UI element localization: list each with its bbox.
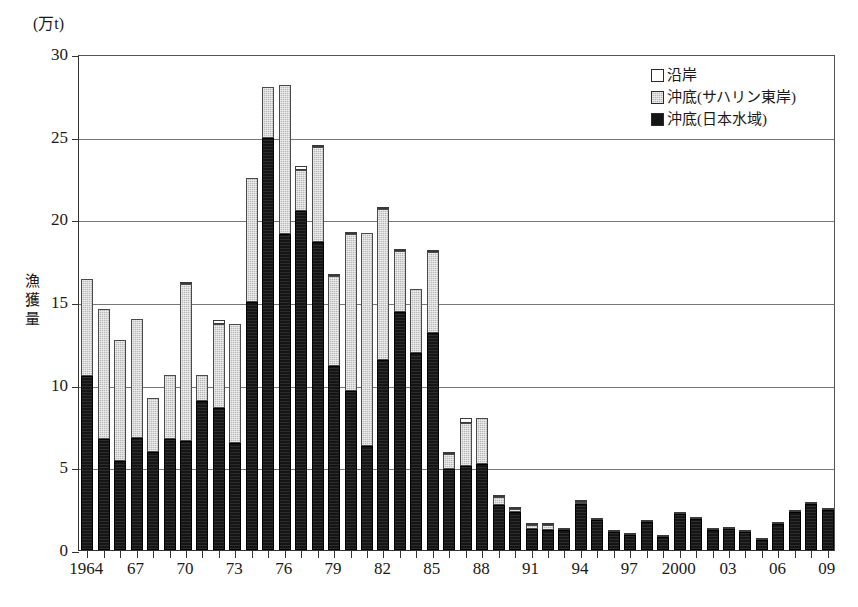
bar <box>410 289 422 550</box>
bar-series-container <box>79 56 834 550</box>
bar-segment-coast <box>723 527 735 529</box>
x-axis-tick <box>170 550 171 558</box>
x-axis-tick-label: 03 <box>720 560 737 577</box>
bar <box>262 87 274 550</box>
bar-segment-japan <box>262 138 274 550</box>
bar-segment-sakhalin <box>262 87 274 138</box>
bar-segment-japan <box>789 512 801 550</box>
bar <box>114 340 126 550</box>
bar-segment-sakhalin <box>229 324 241 443</box>
x-axis-tick-label: 85 <box>423 560 440 577</box>
bar-segment-japan <box>707 530 719 550</box>
legend-swatch-icon <box>651 113 664 126</box>
x-axis-tick <box>745 550 746 558</box>
bar <box>147 398 159 550</box>
bar <box>789 510 801 550</box>
bar-segment-japan <box>805 504 817 550</box>
bar-segment-sakhalin <box>295 170 307 211</box>
bar <box>312 145 324 550</box>
bar-segment-japan <box>295 211 307 550</box>
bar-segment-japan <box>690 519 702 550</box>
bar-segment-sakhalin <box>427 252 439 333</box>
bar-segment-sakhalin <box>345 234 357 391</box>
bar-segment-coast <box>312 145 324 147</box>
bar <box>180 282 192 550</box>
x-axis-tick <box>466 550 467 558</box>
bar <box>476 418 488 550</box>
bar <box>641 520 653 550</box>
bar-segment-coast <box>509 507 521 509</box>
x-axis-tick <box>680 550 681 558</box>
bar-segment-coast <box>575 500 587 502</box>
bar-segment-japan <box>213 408 225 550</box>
x-axis-tick <box>499 550 500 558</box>
bar-segment-sakhalin <box>361 233 373 446</box>
bar-segment-japan <box>509 512 521 550</box>
bar-segment-japan <box>410 353 422 550</box>
bar-segment-coast <box>180 282 192 284</box>
bar <box>328 274 340 550</box>
legend-swatch-icon <box>651 91 664 104</box>
x-axis-tick <box>351 550 352 558</box>
bar-segment-sakhalin <box>377 209 389 359</box>
bar <box>361 233 373 550</box>
bar-segment-sakhalin <box>460 423 472 466</box>
x-axis-tick <box>729 550 730 558</box>
bar <box>246 178 258 550</box>
bar <box>624 533 636 550</box>
bar-segment-coast <box>707 528 719 530</box>
x-axis-tick <box>713 550 714 558</box>
x-axis-tick-label: 79 <box>325 560 342 577</box>
bar-segment-japan <box>443 469 455 550</box>
x-axis-tick <box>235 550 236 558</box>
bar-segment-coast <box>591 518 603 520</box>
bar-segment-sakhalin <box>98 309 110 440</box>
bar <box>805 502 817 550</box>
x-axis-tick <box>696 550 697 558</box>
bar <box>98 309 110 550</box>
x-axis-tick <box>268 550 269 558</box>
bar-segment-sakhalin <box>196 375 208 401</box>
bar-segment-sakhalin <box>312 147 324 243</box>
x-axis-tick-label: 97 <box>621 560 638 577</box>
x-axis-tick <box>416 550 417 558</box>
x-axis-tick-label: 70 <box>176 560 193 577</box>
bar-segment-sakhalin <box>114 340 126 461</box>
bar-segment-coast <box>377 207 389 209</box>
bar-segment-japan <box>591 520 603 550</box>
bar-segment-japan <box>476 464 488 550</box>
x-axis-tick-label: 1964 <box>69 560 103 577</box>
bar-segment-coast <box>739 530 751 532</box>
x-axis-tick <box>630 550 631 558</box>
x-axis-tick <box>564 550 565 558</box>
bar-segment-japan <box>608 532 620 550</box>
bar-segment-sakhalin <box>147 398 159 453</box>
bar <box>443 452 455 550</box>
legend-item-japan: 沖底(日本水域) <box>651 108 796 130</box>
bar-segment-japan <box>427 333 439 550</box>
x-axis-tick-label: 2000 <box>662 560 696 577</box>
bar <box>526 524 538 550</box>
x-axis-tick <box>597 550 598 558</box>
bar-segment-coast <box>789 510 801 512</box>
x-axis-tick <box>778 550 779 558</box>
y-axis-tick <box>72 469 79 470</box>
bar-segment-japan <box>328 366 340 550</box>
x-axis-tick <box>87 550 88 558</box>
x-axis-tick <box>202 550 203 558</box>
bar <box>164 375 176 550</box>
bar <box>196 375 208 550</box>
bar-segment-sakhalin <box>328 276 340 367</box>
bar-segment-japan <box>641 522 653 550</box>
x-axis-tick-label: 76 <box>275 560 292 577</box>
bar <box>493 495 505 550</box>
bar-segment-coast <box>526 523 538 525</box>
x-axis-tick-label: 82 <box>374 560 391 577</box>
x-axis-tick <box>828 550 829 558</box>
bar <box>295 166 307 550</box>
bar <box>213 320 225 550</box>
bar <box>394 249 406 550</box>
bar-segment-japan <box>312 242 324 550</box>
bar-segment-japan <box>772 524 784 550</box>
bar-segment-coast <box>443 452 455 454</box>
